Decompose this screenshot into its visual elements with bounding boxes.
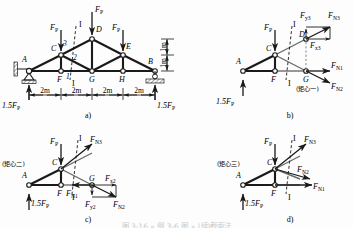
node-label-C-b: C [266, 44, 272, 53]
node-label-D-b: D [298, 30, 305, 39]
moment-center-note-b: (矩心一) [296, 85, 319, 93]
height-label-1: 1m [159, 42, 168, 52]
member-number-2: 2 [73, 53, 77, 62]
node-label-A-d: A [235, 171, 241, 180]
figure-caption: 图 3-16 « 例 3-6 图 » (续)截面法 [0, 220, 353, 228]
node-label-G-a: G [89, 75, 95, 84]
node-label-A-b: A [235, 57, 241, 66]
member-number-1: 1 [66, 72, 70, 81]
node-label-G-b: G [303, 75, 309, 84]
node-label-F-a: F [56, 75, 62, 84]
node-label-G-c: G [89, 174, 95, 183]
section-label-I-top-b: I [293, 20, 296, 29]
node-label-C-c: C [52, 158, 58, 167]
span-label-1: 2m [40, 86, 50, 95]
span-label-3: 2m [103, 86, 113, 95]
node-label-F-b: F [270, 75, 276, 84]
span-label-2: 2m [72, 86, 82, 95]
node-label-F-d: F [270, 189, 276, 198]
node-label-C-a: C [51, 44, 57, 53]
node-label-A-c: A [21, 171, 27, 180]
truss-figure-svg: A C D E B F G H 3 2 1 I I FP FP FP 1.5FP… [0, 0, 353, 228]
member-number-3: 3 [62, 39, 67, 48]
node-label-E-a: E [125, 42, 131, 51]
figure-root: A C D E B F G H 3 2 1 I I FP FP FP 1.5FP… [0, 0, 353, 228]
panel-label-b: b) [287, 111, 294, 120]
node-label-B-a: B [148, 57, 153, 66]
section-label-I-bottom-b: I [288, 79, 291, 88]
node-label-F-c: F [56, 189, 62, 198]
span-label-4: 2m [134, 86, 144, 95]
moment-center-note-c: (矩心二) [2, 160, 25, 168]
node-label-C-d: C [267, 158, 273, 167]
section-label-I-top-a: I [79, 20, 82, 29]
height-label-2: 1m [159, 58, 168, 68]
moment-center-note-d: (矩心三) [217, 160, 240, 168]
section-label-I-bottom-d: I [288, 193, 291, 202]
node-label-A-a: A [21, 55, 27, 64]
node-label-D-a: D [95, 25, 102, 34]
section-label-I-top-d: I [293, 134, 296, 143]
section-label-I-top-c: I [79, 134, 82, 143]
panel-label-a: a) [85, 111, 92, 120]
